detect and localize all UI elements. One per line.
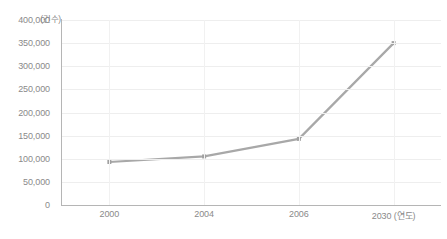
y-tick-label: 150,000 [18,131,50,141]
y-axis-tick-labels: 050,000100,000150,000200,000250,000300,0… [0,20,56,205]
horizontal-gridline [62,113,441,114]
y-tick-label: 250,000 [18,84,50,94]
y-tick-label: 350,000 [18,38,50,48]
x-tick-label: 2004 [194,209,214,219]
y-axis-line [61,19,62,206]
horizontal-gridline [62,43,441,44]
x-tick-label: 2006 [289,209,309,219]
x-tick-label: 2000 [100,209,120,219]
series-polyline [109,43,393,162]
horizontal-gridline [62,159,441,160]
vertical-gridline [299,20,300,205]
y-tick-label: 300,000 [18,61,50,71]
x-axis-unit-label: (연도) [391,211,415,221]
y-tick-label: 0 [45,200,50,210]
horizontal-gridline [62,20,441,21]
y-tick-label: 200,000 [18,108,50,118]
y-tick-label: 400,000 [18,15,50,25]
vertical-gridline [394,20,395,205]
y-tick-label: 50,000 [23,177,50,187]
horizontal-gridline [62,89,441,90]
horizontal-gridline [62,182,441,183]
horizontal-gridline [62,66,441,67]
vertical-gridline [109,20,110,205]
x-axis-tick-labels: 2000200420062030 (연도) [62,209,441,229]
y-tick-label: 100,000 [18,154,50,164]
plot-area [62,20,441,205]
x-tick-label: 2030 (연도) [372,209,416,222]
x-axis-line [61,205,441,206]
vertical-gridline [204,20,205,205]
line-chart: (건수) 050,000100,000150,000200,000250,000… [0,0,447,239]
horizontal-gridline [62,136,441,137]
